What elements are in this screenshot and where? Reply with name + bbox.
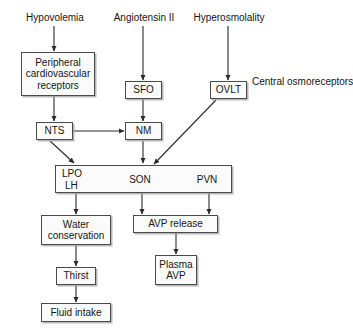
- label-hyperosmolality: Hyperosmolality: [188, 12, 270, 24]
- node-water-conservation-line2: conservation: [48, 230, 105, 242]
- node-avp-release[interactable]: AVP release: [133, 215, 218, 233]
- node-fluid-intake-label: Fluid intake: [50, 307, 101, 319]
- node-ovlt[interactable]: OVLT: [210, 81, 247, 99]
- node-plasma-avp-line1: Plasma: [159, 259, 192, 271]
- node-sfo[interactable]: SFO: [125, 81, 162, 99]
- node-hypothalamic-region[interactable]: LPO LH SON PVN: [55, 165, 232, 193]
- edge-ovlt-to-region: [154, 100, 216, 164]
- region-label-pvn: PVN: [190, 174, 224, 186]
- node-fluid-intake[interactable]: Fluid intake: [41, 303, 111, 322]
- region-label-son: SON: [123, 174, 157, 186]
- node-avp-release-label: AVP release: [148, 218, 203, 230]
- node-nm-label: NM: [136, 125, 152, 137]
- node-plasma-avp-line2: AVP: [166, 270, 185, 282]
- edge-nts-to-region: [50, 141, 74, 163]
- node-thirst[interactable]: Thirst: [56, 267, 96, 285]
- label-central-osmoreceptors-line2: osmoreceptors: [287, 76, 353, 87]
- node-nts-label: NTS: [45, 125, 65, 137]
- label-hyperosmolality-text: Hyperosmolality: [193, 12, 264, 23]
- region-label-lpo: LPO: [62, 168, 92, 180]
- label-angiotensin-ii: Angiotensin II: [109, 12, 179, 24]
- node-water-conservation-line1: Water: [63, 219, 89, 231]
- label-central-osmoreceptors: Central osmoreceptors: [252, 76, 332, 88]
- node-sfo-label: SFO: [133, 84, 154, 96]
- label-central-osmoreceptors-line1: Central: [252, 76, 284, 87]
- label-hypovolemia-text: Hypovolemia: [26, 12, 84, 23]
- label-hypovolemia: Hypovolemia: [23, 12, 87, 24]
- node-peripheral-cardiovascular-receptors[interactable]: Peripheral cardiovascular receptors: [21, 52, 95, 96]
- node-thirst-label: Thirst: [64, 270, 89, 282]
- node-peripheral-receptors-line1: Peripheral: [35, 57, 81, 69]
- node-nts[interactable]: NTS: [36, 122, 73, 140]
- node-peripheral-receptors-line3: receptors: [37, 80, 79, 92]
- node-plasma-avp[interactable]: Plasma AVP: [155, 255, 197, 285]
- node-nm[interactable]: NM: [125, 122, 162, 140]
- node-water-conservation[interactable]: Water conservation: [41, 215, 111, 245]
- region-label-lh: LH: [65, 180, 95, 192]
- node-peripheral-receptors-line2: cardiovascular: [26, 68, 90, 80]
- label-angiotensin-ii-text: Angiotensin II: [114, 12, 175, 23]
- node-ovlt-label: OVLT: [216, 84, 241, 96]
